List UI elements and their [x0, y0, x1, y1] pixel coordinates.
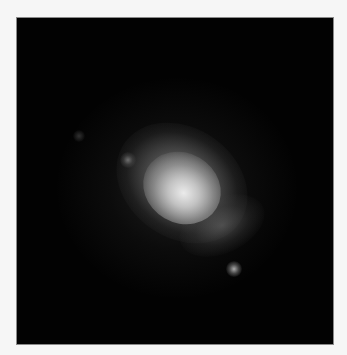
galaxy-image [17, 18, 333, 344]
page [0, 0, 347, 355]
spiral-arm [170, 182, 275, 270]
faint-blob-2 [73, 130, 85, 142]
galaxy-core [130, 138, 234, 239]
faint-blob [120, 152, 136, 168]
galaxy-disk [93, 98, 271, 268]
field-star [226, 261, 242, 277]
galaxy-halo [57, 78, 297, 298]
